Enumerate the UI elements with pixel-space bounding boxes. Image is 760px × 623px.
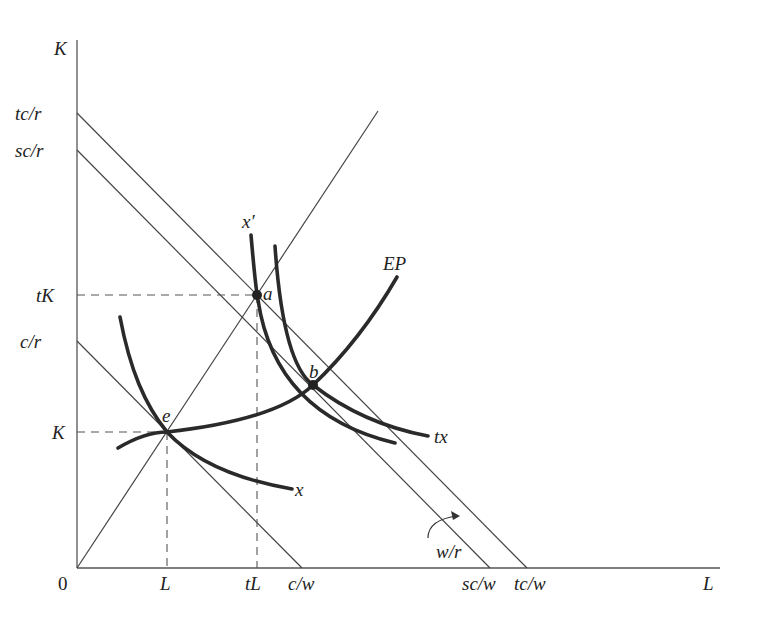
xtick-tc-w: tc/w [514, 573, 546, 594]
ytick-tK: tK [36, 285, 55, 306]
label-x-prime: x′ [241, 211, 255, 232]
isocost-sc [77, 150, 490, 568]
ytick-K: K [51, 422, 66, 443]
point-a [252, 290, 262, 300]
ytick-c-r: c/r [20, 331, 42, 352]
ytick-sc-r: sc/r [15, 140, 44, 161]
label-slope: w/r [436, 541, 462, 562]
arrow-icon [451, 511, 460, 520]
label-EP: EP [382, 253, 407, 274]
label-a: a [263, 283, 273, 304]
isoquant-x-prime [251, 235, 395, 443]
label-b: b [309, 361, 319, 382]
x-axis-label: L [702, 573, 714, 594]
label-tx: tx [434, 426, 448, 447]
ytick-tc-r: tc/r [15, 103, 42, 124]
ray-from-origin [77, 111, 378, 568]
y-axis-label: K [53, 38, 68, 59]
origin-label: 0 [58, 573, 68, 594]
isocost-c [77, 341, 302, 568]
label-x: x [294, 479, 304, 500]
xtick-sc-w: sc/w [462, 573, 496, 594]
expansion-path-diagram: K L 0 tc/r sc/r tK c/r K L tL c/w sc/w t… [0, 0, 760, 623]
label-e: e [162, 405, 170, 426]
xtick-c-w: c/w [288, 573, 315, 594]
xtick-L: L [159, 573, 171, 594]
xtick-tL: tL [245, 573, 261, 594]
